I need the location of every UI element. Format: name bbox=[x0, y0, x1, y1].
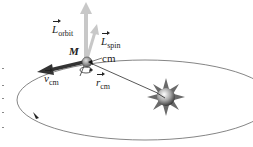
label-r-cm: rcm bbox=[96, 77, 110, 91]
spin-rotation-icon bbox=[80, 66, 93, 76]
orbit-diagram: Lorbit Lspin M cm vcm rcm bbox=[0, 0, 253, 147]
central-star bbox=[147, 78, 185, 116]
label-l-spin: Lspin bbox=[101, 36, 120, 50]
vector-arrow-icon bbox=[45, 70, 51, 71]
label-l-orbit: Lorbit bbox=[52, 24, 73, 38]
label-cm: cm bbox=[102, 53, 115, 64]
vector-arrow-icon bbox=[102, 33, 108, 34]
edge-mark bbox=[2, 68, 4, 69]
vector-arrow-icon bbox=[97, 74, 103, 75]
edge-mark bbox=[2, 98, 4, 99]
label-v-cm: vcm bbox=[44, 73, 59, 87]
orbit-direction-arrow-icon bbox=[33, 112, 39, 119]
label-mass: M bbox=[69, 46, 79, 57]
edge-mark bbox=[2, 112, 4, 113]
diagram-canvas bbox=[0, 0, 253, 147]
edge-mark bbox=[2, 85, 4, 86]
vector-arrow-icon bbox=[53, 21, 59, 22]
edge-mark bbox=[2, 127, 4, 128]
